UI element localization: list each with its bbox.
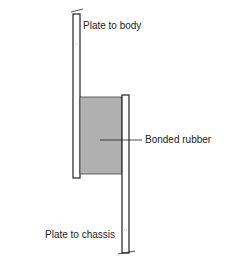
- label-plate-to-chassis: Plate to chassis: [45, 229, 115, 240]
- label-plate-to-body: Plate to body: [83, 20, 141, 31]
- mount-diagram: [0, 0, 225, 262]
- label-bonded-rubber: Bonded rubber: [145, 134, 211, 145]
- bonded-rubber-block: [80, 97, 122, 174]
